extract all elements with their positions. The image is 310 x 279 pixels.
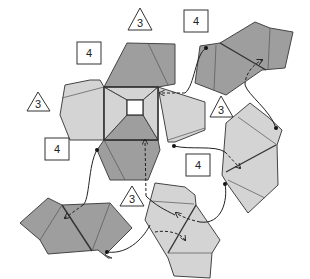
svg-text:3: 3 [129,193,135,205]
top-unit [104,43,175,87]
square-label-left: 4 [45,138,69,160]
svg-text:4: 4 [195,159,201,171]
square-label-top-right: 4 [184,10,208,32]
bottom-unit [97,140,160,180]
svg-text:3: 3 [35,98,41,110]
triangle-label-top: 3 [128,8,152,30]
triangle-label-left: 3 [27,92,50,111]
top-right-unit [195,22,293,95]
bottom-center-unit [145,183,220,278]
triangle-label-right: 3 [210,96,233,117]
origami-diagram: 3 3 3 3 4 4 4 4 [0,0,310,279]
bottom-left-unit [20,198,132,258]
svg-text:4: 4 [193,15,199,27]
right-side-unit [222,103,282,213]
square-label-center-right: 4 [186,154,210,176]
square-hole [127,100,143,115]
square-label-top-left: 4 [77,42,101,64]
right-unit [158,87,205,142]
svg-text:3: 3 [137,17,143,29]
triangle-label-bottom: 3 [120,186,144,206]
svg-text:4: 4 [54,143,60,155]
svg-text:3: 3 [218,104,224,116]
svg-text:4: 4 [86,47,92,59]
